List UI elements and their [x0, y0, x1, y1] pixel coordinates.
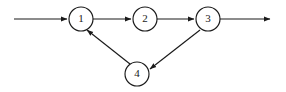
node-3[interactable]: 3: [196, 7, 220, 31]
node-3-label: 3: [205, 12, 211, 24]
edge-node-3-to-node-4: [150, 30, 200, 69]
node-layer: 1 2 3 4: [69, 7, 220, 86]
node-4-label: 4: [134, 67, 140, 79]
directed-graph: 1 2 3 4: [0, 0, 286, 92]
node-2-label: 2: [142, 12, 148, 24]
node-1[interactable]: 1: [69, 7, 93, 31]
edge-node-4-to-node-1: [87, 30, 130, 64]
node-2[interactable]: 2: [133, 7, 157, 31]
diagram-canvas: 1 2 3 4: [0, 0, 286, 92]
node-1-label: 1: [78, 12, 84, 24]
node-4[interactable]: 4: [125, 62, 149, 86]
